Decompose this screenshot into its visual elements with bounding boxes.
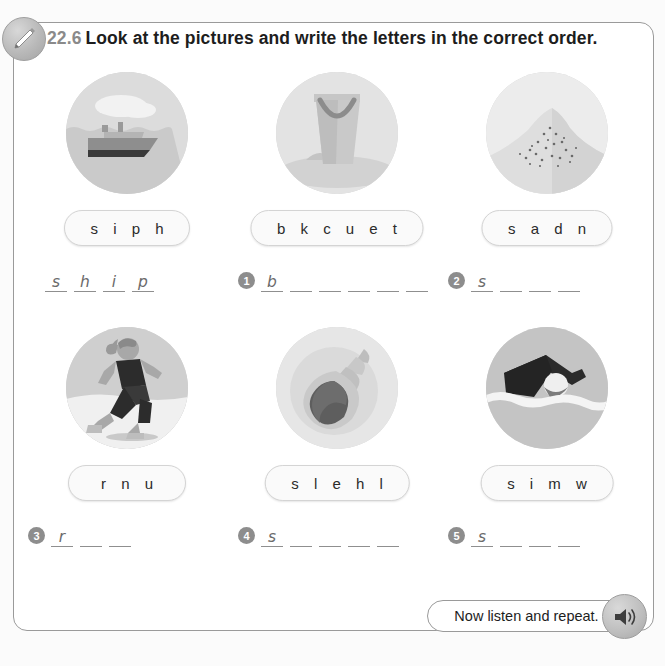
listen-repeat-label: Now listen and repeat. <box>454 608 598 624</box>
item-number-badge: 3 <box>28 527 45 544</box>
item-number-badge: 5 <box>448 527 465 544</box>
answer-blank[interactable] <box>529 527 551 547</box>
answer-blank[interactable]: p <box>132 272 154 292</box>
picture-wrap: s i m w <box>442 327 652 459</box>
exercise-item-sand: s a d n 2 s <box>442 72 652 204</box>
answer-blanks[interactable]: s h i p <box>45 272 154 292</box>
sand-icon <box>486 72 608 194</box>
letter-tile-ship[interactable]: s i p h <box>64 210 190 246</box>
answer-letter: b <box>267 275 277 291</box>
answer-letter: r <box>59 530 65 546</box>
exercise-item-shell: s l e h l 4 s <box>232 327 442 459</box>
answer-blank[interactable]: s <box>45 272 67 292</box>
answer-letter: p <box>138 275 148 291</box>
answer-blank[interactable] <box>500 527 522 547</box>
answer-blank[interactable] <box>319 527 341 547</box>
answer-blank[interactable] <box>348 527 370 547</box>
letter-tile-shell[interactable]: s l e h l <box>265 465 410 501</box>
answer-letter: i <box>112 275 116 291</box>
answer-blank[interactable] <box>109 527 131 547</box>
answer-blanks[interactable]: s <box>471 272 580 292</box>
answer-letter: s <box>478 530 486 546</box>
answer-letter: s <box>268 530 276 546</box>
picture-wrap: s l e h l <box>232 327 442 459</box>
answer-blank[interactable]: s <box>261 527 283 547</box>
answer-blank[interactable] <box>348 272 370 292</box>
letter-tile-swim[interactable]: s i m w <box>481 465 614 501</box>
answer-blank[interactable]: s <box>471 272 493 292</box>
answer-blank[interactable] <box>558 272 580 292</box>
answer-blank[interactable] <box>377 527 399 547</box>
answer-blank[interactable]: b <box>261 272 283 292</box>
exercise-item-ship: s i p h s h i p <box>22 72 232 204</box>
swim-icon <box>486 327 608 449</box>
answer-blank[interactable] <box>290 272 312 292</box>
answer-row-swim: 5 s <box>442 513 652 547</box>
answer-blanks[interactable]: b <box>261 272 428 292</box>
answer-blanks[interactable]: s <box>261 527 399 547</box>
exercise-item-run: r n u 3 r <box>22 327 232 459</box>
picture-wrap: s i p h <box>22 72 232 204</box>
answer-letter: s <box>478 275 486 291</box>
answer-letter: h <box>80 275 90 291</box>
run-icon <box>66 327 188 449</box>
answer-blank[interactable]: s <box>471 527 493 547</box>
bucket-icon <box>276 72 398 194</box>
answer-blanks[interactable]: s <box>471 527 580 547</box>
answer-row-sand: 2 s <box>442 258 652 292</box>
answer-blank[interactable] <box>377 272 399 292</box>
picture-wrap: s a d n <box>442 72 652 204</box>
answer-row-run: 3 r <box>22 513 232 547</box>
answer-blank[interactable] <box>500 272 522 292</box>
item-number-badge: 1 <box>238 272 255 289</box>
answer-row-bucket: 1 b <box>232 258 442 292</box>
item-number-badge: 2 <box>448 272 465 289</box>
listen-repeat-bar: Now listen and repeat. <box>427 600 642 632</box>
letter-tile-run[interactable]: r n u <box>68 465 186 501</box>
picture-wrap: r n u <box>22 327 232 459</box>
picture-wrap: b k c u e t <box>232 72 442 204</box>
speaker-icon[interactable] <box>602 594 647 639</box>
answer-blanks[interactable]: r <box>51 527 131 547</box>
exercise-grid: s i p h s h i p <box>0 0 641 609</box>
answer-letter: s <box>52 275 60 291</box>
ship-icon <box>66 72 188 194</box>
answer-blank[interactable] <box>529 272 551 292</box>
pencil-icon <box>2 17 46 61</box>
answer-blank[interactable]: r <box>51 527 73 547</box>
item-number-badge: 4 <box>238 527 255 544</box>
answer-row-shell: 4 s <box>232 513 442 547</box>
answer-blank[interactable]: h <box>74 272 96 292</box>
answer-blank[interactable]: i <box>103 272 125 292</box>
letter-tile-bucket[interactable]: b k c u e t <box>250 210 423 246</box>
answer-row-ship: s h i p <box>22 258 232 292</box>
exercise-item-swim: s i m w 5 s <box>442 327 652 459</box>
exercise-item-bucket: b k c u e t 1 b <box>232 72 442 204</box>
answer-blank[interactable] <box>406 272 428 292</box>
answer-blank[interactable] <box>319 272 341 292</box>
answer-blank[interactable] <box>290 527 312 547</box>
answer-blank[interactable] <box>558 527 580 547</box>
shell-icon <box>276 327 398 449</box>
letter-tile-sand[interactable]: s a d n <box>481 210 612 246</box>
answer-blank[interactable] <box>80 527 102 547</box>
